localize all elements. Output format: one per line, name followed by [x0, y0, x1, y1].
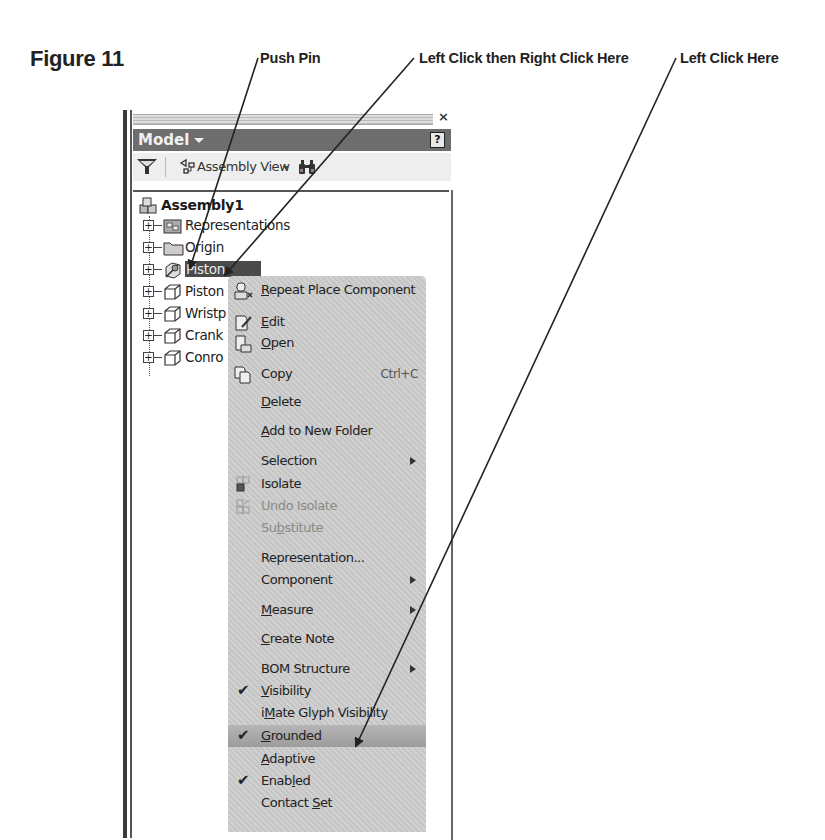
assembly-view-icon — [179, 158, 197, 178]
menu-item-representation[interactable]: Representation... — [228, 547, 426, 569]
menu-item-label: reate Note — [270, 631, 335, 646]
model-dropdown[interactable]: Model — [138, 131, 204, 149]
checkmark-icon: ✔ — [237, 771, 250, 789]
panel-border-inner — [130, 110, 132, 838]
help-icon[interactable]: ? — [430, 132, 445, 148]
menu-item-edit[interactable]: Edit — [228, 311, 426, 333]
toolbar-separator — [165, 157, 166, 177]
expand-icon[interactable]: + — [143, 352, 154, 363]
menu-item-label: BOM Structure — [261, 661, 350, 676]
menu-item-label: dd to New Folder — [269, 423, 372, 438]
menu-item-label: ate Glyph Visibility — [275, 705, 388, 720]
menu-item-label: rounded — [271, 728, 322, 743]
menu-item-copy[interactable]: Copy Ctrl+C — [228, 363, 426, 385]
tree-item-label: Representations — [185, 217, 290, 233]
part-icon — [163, 327, 183, 349]
menu-item-label: pen — [271, 335, 294, 350]
folder-icon — [163, 239, 185, 261]
callout-left-then-right-click: Left Click then Right Click Here — [419, 50, 629, 66]
tree-item-origin[interactable]: + Origin — [143, 238, 443, 258]
filter-icon[interactable] — [136, 158, 158, 180]
open-icon — [233, 334, 255, 358]
expand-icon[interactable]: + — [143, 308, 154, 319]
menu-item-enabled[interactable]: ✔ Enabled — [228, 770, 426, 792]
menu-item-label: stitute — [284, 520, 323, 535]
tree-item-label: Piston — [185, 283, 224, 299]
tree-connector — [154, 335, 162, 336]
menu-item-label: dit — [269, 314, 285, 329]
menu-item-label: easure — [272, 602, 313, 617]
tree-item-representations[interactable]: + Representations — [143, 216, 443, 236]
menu-item-repeat-place-component[interactable]: Repeat Place Component — [228, 279, 426, 301]
tree-connector — [154, 313, 162, 314]
mnemonic: M — [264, 705, 275, 720]
tree-item-label: Conro — [185, 349, 223, 365]
menu-item-label: isibility — [269, 683, 311, 698]
menu-item-label: elete — [271, 394, 301, 409]
tree-connector — [154, 225, 162, 226]
tree-connector — [154, 291, 162, 292]
menu-item-create-note[interactable]: Create Note — [228, 628, 426, 650]
panel-drag-grip[interactable] — [133, 114, 433, 125]
menu-item-grounded[interactable]: ✔ Grounded — [228, 725, 426, 747]
panel-border — [123, 110, 127, 838]
assembly-view-selector[interactable]: Assembly View — [197, 159, 289, 174]
chevron-down-icon[interactable] — [283, 166, 289, 170]
expand-icon[interactable]: + — [143, 264, 154, 275]
menu-item-label: Su — [261, 520, 277, 535]
menu-item-open[interactable]: Open — [228, 332, 426, 354]
menu-item-label: et — [320, 795, 332, 810]
panel-title-bar: Model ? — [133, 129, 451, 151]
mnemonic: S — [312, 795, 320, 810]
menu-item-adaptive[interactable]: Adaptive — [228, 748, 426, 770]
mnemonic: D — [261, 394, 271, 409]
callout-push-pin: Push Pin — [260, 50, 320, 66]
expand-icon[interactable]: + — [143, 286, 154, 297]
expand-icon[interactable]: + — [143, 242, 154, 253]
mnemonic: V — [261, 683, 269, 698]
menu-item-contact-set[interactable]: Contact Set — [228, 792, 426, 814]
part-icon — [163, 305, 183, 327]
submenu-arrow-icon — [410, 576, 416, 584]
checkmark-icon: ✔ — [237, 726, 250, 744]
close-panel-button[interactable]: × — [438, 109, 449, 124]
panel-border-right — [451, 190, 453, 840]
context-menu: Repeat Place Component Edit Open Copy Ct… — [228, 276, 426, 832]
panel-title: Model — [138, 131, 189, 149]
checkmark-icon: ✔ — [237, 681, 250, 699]
menu-item-isolate[interactable]: Isolate — [228, 473, 426, 495]
expand-icon[interactable]: + — [143, 330, 154, 341]
part-icon — [163, 349, 183, 371]
menu-item-bom-structure[interactable]: BOM Structure — [228, 658, 426, 680]
repeat-place-icon — [233, 281, 255, 305]
menu-item-substitute[interactable]: Substitute — [228, 517, 426, 539]
mnemonic: A — [261, 751, 269, 766]
menu-item-label: epeat Place Component — [269, 282, 415, 297]
menu-item-label: Copy — [261, 366, 292, 381]
menu-item-label: Enab — [261, 773, 292, 788]
menu-item-measure[interactable]: Measure — [228, 599, 426, 621]
mnemonic: G — [261, 728, 271, 743]
binoculars-icon[interactable] — [297, 158, 317, 180]
menu-item-undo-isolate[interactable]: Undo Isolate — [228, 495, 426, 517]
tree-connector — [154, 247, 162, 248]
tree-connector — [154, 269, 162, 270]
copy-icon — [233, 365, 255, 389]
menu-item-add-to-new-folder[interactable]: Add to New Folder — [228, 420, 426, 442]
menu-item-visibility[interactable]: ✔ Visibility — [228, 680, 426, 702]
tree-item-label: Piston — [185, 261, 261, 277]
menu-item-label: Isolate — [261, 476, 301, 491]
menu-item-label: Representation... — [261, 550, 364, 565]
mnemonic: M — [261, 602, 272, 617]
menu-item-imate-glyph-visibility[interactable]: iMate Glyph Visibility — [228, 702, 426, 724]
mnemonic: A — [261, 423, 269, 438]
mnemonic: R — [261, 282, 269, 297]
menu-item-selection[interactable]: Selection — [228, 450, 426, 472]
shortcut-label: Ctrl+C — [381, 367, 418, 381]
browser-toolbar: Assembly View — [133, 153, 451, 181]
callout-left-click: Left Click Here — [680, 50, 779, 66]
menu-item-label: Selection — [261, 453, 317, 468]
menu-item-delete[interactable]: Delete — [228, 391, 426, 413]
menu-item-component[interactable]: Component — [228, 569, 426, 591]
expand-icon[interactable]: + — [143, 220, 154, 231]
